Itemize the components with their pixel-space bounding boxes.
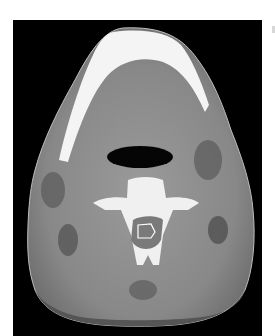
- ct-axial-neck-scan: [13, 20, 262, 336]
- ct-image-panel: [13, 20, 262, 336]
- edge-mark: [272, 26, 275, 33]
- airway: [107, 146, 173, 168]
